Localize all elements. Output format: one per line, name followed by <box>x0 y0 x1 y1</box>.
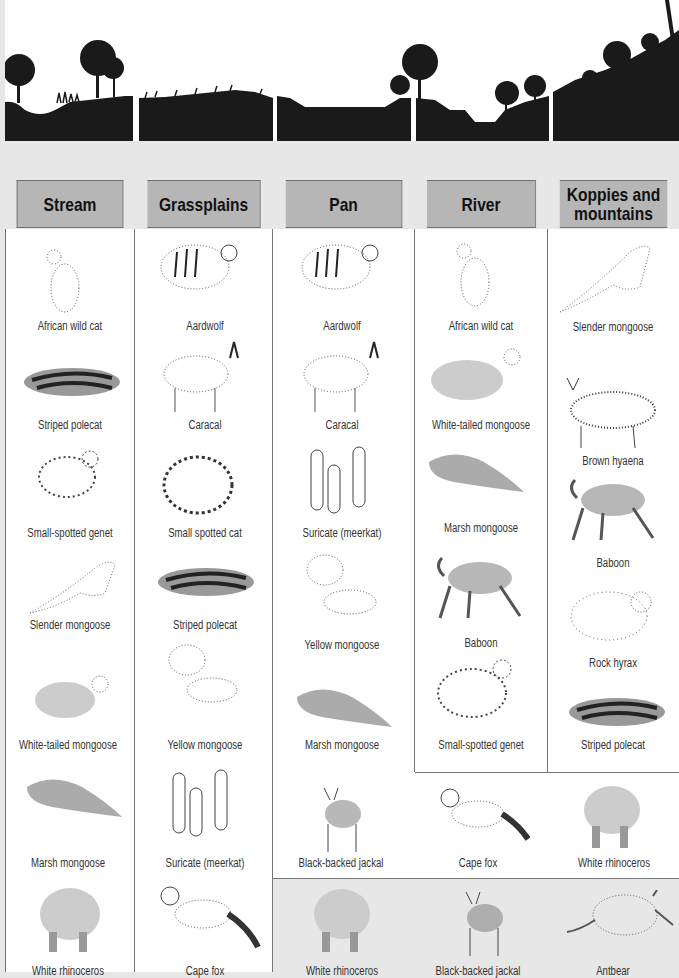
animal-label: Suricate (meerkat) <box>303 526 382 540</box>
header-label: Pan <box>329 195 358 214</box>
animal-label: Small-spotted genet <box>27 526 112 540</box>
striped-polecat-illustration <box>12 362 124 402</box>
animal-label: Slender mongoose <box>573 320 654 334</box>
black-backed-jackal-illustration <box>460 888 510 958</box>
slender-mongoose-illustration <box>555 237 655 317</box>
header-river: River <box>427 180 536 228</box>
header-label-line1: Koppies and <box>567 185 660 204</box>
striped-polecat-illustration <box>557 692 669 732</box>
header-label: Stream <box>44 195 97 214</box>
animal-label: Marsh mongoose <box>444 521 518 535</box>
small-spotted-genet-illustration <box>35 447 103 501</box>
animal-label: African wild cat <box>449 319 514 333</box>
white-tailed-mongoose-illustration <box>30 672 112 722</box>
cape-fox-illustration <box>158 882 263 957</box>
white-rhinoceros-illustration <box>310 882 380 957</box>
suricate-illustration <box>165 768 245 843</box>
header-label: River <box>462 195 501 214</box>
animal-label: Black-backed jackal <box>436 964 521 978</box>
brown-hyaena-illustration <box>563 372 659 450</box>
marsh-mongoose-illustration <box>22 772 127 827</box>
animal-label: Suricate (meerkat) <box>166 856 245 870</box>
rock-hyrax-illustration <box>567 584 657 644</box>
caracal-illustration <box>300 340 382 415</box>
striped-polecat-illustration <box>146 562 258 602</box>
animal-label: Striped polecat <box>581 738 645 752</box>
aardwolf-illustration <box>157 237 241 309</box>
animal-label: White-tailed mongoose <box>432 418 530 432</box>
animal-label: White-tailed mongoose <box>19 738 117 752</box>
animal-label: Aardwolf <box>323 319 360 333</box>
animal-label: Caracal <box>188 418 221 432</box>
african-wild-cat-illustration <box>40 243 90 315</box>
animal-label: Cape fox <box>459 856 497 870</box>
animal-label: Small spotted cat <box>168 526 242 540</box>
african-wild-cat-illustration <box>450 237 500 309</box>
slender-mongoose-illustration <box>25 553 120 621</box>
animal-label: Antbear <box>596 964 630 978</box>
animal-label: Slender mongoose <box>30 618 111 632</box>
marsh-mongoose-illustration <box>424 447 529 502</box>
small-spotted-cat-illustration <box>160 447 242 517</box>
animal-label: Baboon <box>464 636 497 650</box>
cape-fox-illustration <box>438 784 530 854</box>
black-backed-jackal-illustration <box>318 784 368 854</box>
animal-label: Yellow mongoose <box>305 638 380 652</box>
habitat-silhouette <box>5 0 679 141</box>
suricate-illustration <box>303 445 383 520</box>
white-rhinoceros-illustration <box>580 780 650 852</box>
header-grassplains: Grassplains <box>147 180 260 228</box>
marsh-mongoose-illustration <box>292 682 397 737</box>
aardwolf-illustration <box>298 237 382 309</box>
antbear-illustration <box>565 890 675 945</box>
animal-label: Striped polecat <box>38 418 102 432</box>
header-pan: Pan <box>286 180 402 228</box>
baboon-illustration <box>430 556 525 624</box>
animal-label: Aardwolf <box>186 319 223 333</box>
caracal-illustration <box>160 340 242 415</box>
animal-label: Rock hyrax <box>589 656 637 670</box>
animal-label: Cape fox <box>186 964 224 978</box>
animal-label: Brown hyaena <box>582 454 643 468</box>
animal-label: Black-backed jackal <box>299 856 384 870</box>
small-spotted-genet-illustration <box>432 655 517 725</box>
animal-label: Small-spotted genet <box>438 738 523 752</box>
baboon-illustration <box>563 478 658 546</box>
white-tailed-mongoose-illustration <box>427 345 525 407</box>
yellow-mongoose-illustration <box>162 640 244 720</box>
animal-label: Marsh mongoose <box>31 856 105 870</box>
animal-label: African wild cat <box>38 319 103 333</box>
header-stream: Stream <box>17 180 124 228</box>
header-koppies-and-mountains: Koppies and mountains <box>560 180 667 228</box>
landscape-illustration <box>5 0 679 141</box>
animal-label: White rhinoceros <box>32 964 104 978</box>
header-label-line2: mountains <box>574 204 653 223</box>
animal-label: Marsh mongoose <box>305 738 379 752</box>
white-rhinoceros-illustration <box>35 882 110 957</box>
animal-label: White rhinoceros <box>578 856 650 870</box>
animal-label: Yellow mongoose <box>168 738 243 752</box>
animal-label: Baboon <box>596 556 629 570</box>
animal-label: Striped polecat <box>173 618 237 632</box>
header-label: Grassplains <box>159 195 248 214</box>
animal-label: Caracal <box>325 418 358 432</box>
yellow-mongoose-illustration <box>300 550 385 632</box>
animal-label: White rhinoceros <box>306 964 378 978</box>
